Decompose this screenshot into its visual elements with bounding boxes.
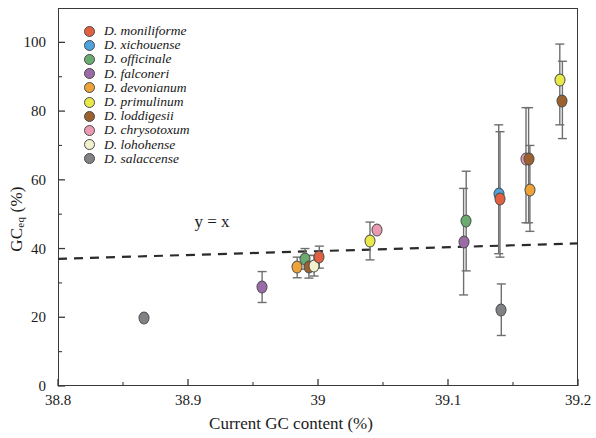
- legend-item: D. primulinum: [84, 95, 189, 109]
- legend-marker-icon: [84, 82, 95, 93]
- y-axis-label: GCeq (%): [7, 186, 27, 251]
- legend-item-label: D. falconeri: [104, 67, 169, 81]
- data-point-marker: [554, 74, 565, 87]
- legend-marker-icon: [84, 153, 95, 164]
- legend-item: D. loddigesii: [84, 109, 189, 123]
- x-tick-label: 39.1: [418, 392, 478, 409]
- legend-item-label: D. devonianum: [104, 81, 186, 95]
- legend-item-label: D. officinale: [104, 52, 172, 66]
- y-axis-label-unit: (%): [7, 186, 26, 217]
- legend-item-label: D. moniliforme: [104, 24, 187, 38]
- data-point-marker: [557, 94, 568, 107]
- legend-marker-icon: [84, 26, 95, 37]
- y-tick-label: 80: [0, 103, 46, 120]
- legend-item-label: D. lohohense: [104, 138, 175, 152]
- data-point-marker: [495, 192, 506, 205]
- legend-item-label: D. primulinum: [104, 95, 184, 109]
- x-tick-label: 38.9: [158, 392, 218, 409]
- legend-item: D. devonianum: [84, 81, 189, 95]
- data-point-marker: [138, 311, 149, 324]
- legend-marker-icon: [84, 111, 95, 122]
- data-point-marker: [523, 153, 534, 166]
- legend-item-label: D. chrysotoxum: [104, 123, 189, 137]
- legend-item-label: D. loddigesii: [104, 109, 174, 123]
- legend-marker-icon: [84, 68, 95, 79]
- legend-marker-icon: [84, 54, 95, 65]
- legend-marker-icon: [84, 40, 95, 51]
- legend-marker-icon: [84, 139, 95, 150]
- legend-item-label: D. xichouense: [104, 38, 180, 52]
- legend-marker-icon: [84, 97, 95, 108]
- legend-item: D. moniliforme: [84, 24, 189, 38]
- legend-item-label: D. salaccense: [104, 152, 179, 166]
- data-point-marker: [314, 251, 325, 264]
- reference-line-annotation: y = x: [195, 212, 230, 232]
- legend-item: D. chrysotoxum: [84, 123, 189, 137]
- data-point-marker: [524, 184, 535, 197]
- legend-item: D. lohohense: [84, 138, 189, 152]
- legend: D. moniliformeD. xichouenseD. officinale…: [84, 24, 189, 166]
- x-tick-label: 39.2: [548, 392, 596, 409]
- legend-item: D. officinale: [84, 52, 189, 66]
- data-point-marker: [257, 281, 268, 294]
- data-point-marker: [458, 235, 469, 248]
- legend-item: D. falconeri: [84, 67, 189, 81]
- x-axis-label: Current GC content (%): [0, 414, 582, 434]
- legend-item: D. salaccense: [84, 152, 189, 166]
- data-point-marker: [365, 234, 376, 247]
- data-point-marker: [496, 303, 507, 316]
- data-point-marker: [461, 215, 472, 228]
- x-tick-label: 39: [288, 392, 348, 409]
- legend-marker-icon: [84, 125, 95, 136]
- y-tick-label: 20: [0, 309, 46, 326]
- x-tick-label: 38.8: [28, 392, 88, 409]
- y-tick-label: 100: [0, 34, 46, 51]
- y-axis-label-main: GC: [7, 228, 26, 252]
- legend-item: D. xichouense: [84, 38, 189, 52]
- data-point-marker: [371, 223, 382, 236]
- y-axis-label-subscript: eq: [14, 217, 26, 228]
